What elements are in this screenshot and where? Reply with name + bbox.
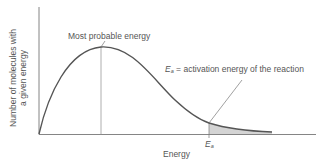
shaded-area-above-activation-energy (209, 123, 272, 135)
x-axis-label: Energy (163, 150, 190, 159)
energy-distribution-chart (0, 0, 323, 167)
distribution-curve (39, 47, 272, 134)
y-axis-label: Number of molecules with a given energy (5, 22, 31, 134)
ea-definition: = activation energy of the reaction (174, 64, 304, 74)
most-probable-leader (101, 41, 105, 47)
most-probable-energy-label: Most probable energy (68, 32, 150, 41)
y-axis-label-line2: a given energy (18, 29, 28, 127)
activation-energy-leader (209, 80, 242, 123)
ea-axis-subscript: a (211, 143, 214, 149)
y-axis-label-line1: Number of molecules with (8, 29, 18, 127)
activation-energy-callout: Ea = activation energy of the reaction (165, 65, 304, 75)
activation-energy-axis-marker: Ea (205, 140, 214, 150)
